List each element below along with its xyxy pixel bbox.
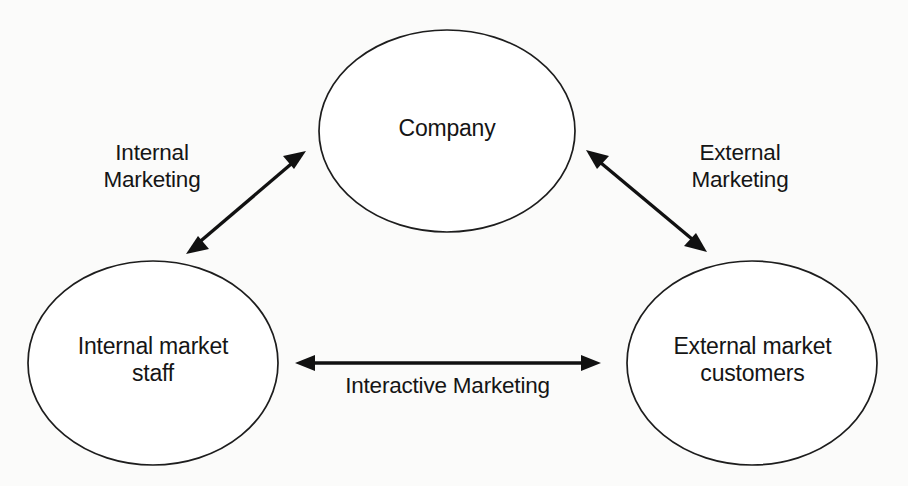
services-marketing-triangle-diagram: Company Internal market staff External m… [0, 0, 908, 486]
node-external-market-label: External market customers [627, 333, 878, 387]
edge-interactive-marketing-arrow[interactable] [295, 355, 601, 371]
edge-internal-marketing-label: Internal Marketing [62, 140, 242, 193]
node-internal-market-label: Internal market staff [28, 333, 278, 387]
edge-external-marketing-label: External Marketing [650, 140, 830, 193]
edge-interactive-marketing-label: Interactive Marketing [290, 373, 605, 400]
diagram-canvas [0, 0, 908, 486]
node-company-label: Company [318, 115, 576, 142]
arrow-head-right-icon [581, 355, 601, 371]
arrow-head-left-icon [295, 355, 315, 371]
